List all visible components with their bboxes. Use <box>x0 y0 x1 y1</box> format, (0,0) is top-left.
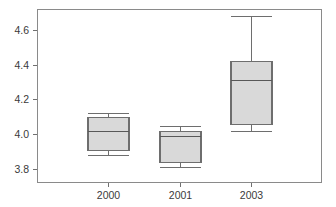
x-tick-label-2003: 2003 <box>240 189 264 201</box>
box-group-2000 <box>88 114 130 156</box>
boxplot-canvas: 3.84.04.24.44.6200020012003 <box>0 0 336 207</box>
box-group-2001 <box>160 127 202 168</box>
box-rect <box>231 62 272 125</box>
y-tick-label: 4.4 <box>14 59 29 71</box>
y-tick-label: 4.0 <box>14 128 29 140</box>
y-tick-label: 4.6 <box>14 24 29 36</box>
box-rect <box>88 118 129 151</box>
boxplot-figure: 3.84.04.24.44.6200020012003 <box>0 0 336 207</box>
y-tick-label: 4.2 <box>14 93 29 105</box>
x-tick-label-2001: 2001 <box>169 189 193 201</box>
x-tick-label-2000: 2000 <box>97 189 121 201</box>
y-tick-label: 3.8 <box>14 163 29 175</box>
